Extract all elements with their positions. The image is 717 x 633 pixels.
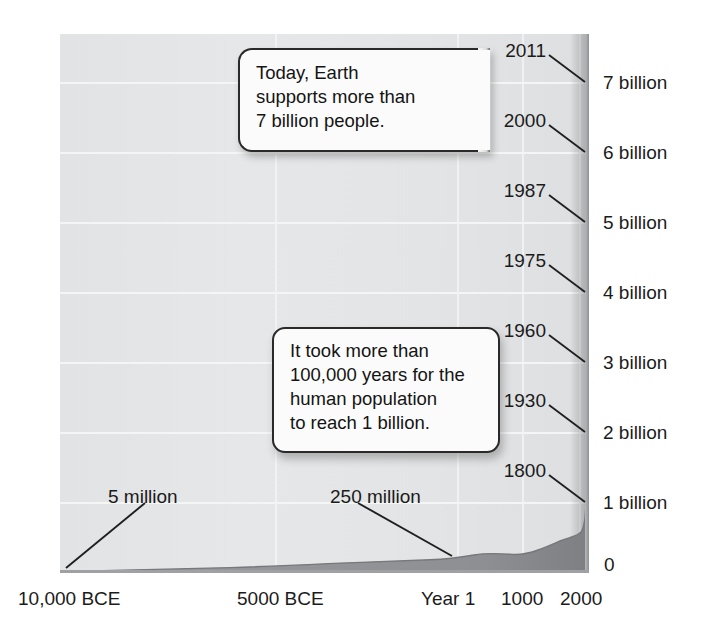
y-tick-label-zero: 0	[604, 555, 615, 574]
annotation-250-million: 250 million	[330, 487, 421, 506]
callout-today-earth-text: Today, Earth supports more than 7 billio…	[256, 61, 490, 133]
y-tick-label-7-billion: 7 billion	[603, 73, 667, 92]
x-tick-label-5000-bce: 5000 BCE	[237, 589, 324, 608]
callout-100000-years-text: It took more than 100,000 years for the …	[290, 339, 498, 435]
y-tick-label-5-billion: 5 billion	[603, 213, 667, 232]
x-tick-label-10000-bce: 10,000 BCE	[18, 589, 120, 608]
callout-today-earth: Today, Earth supports more than 7 billio…	[238, 48, 490, 152]
callout-right-fade	[478, 48, 492, 152]
x-tick-label-2000: 2000	[560, 589, 602, 608]
y-tick-label-1-billion: 1 billion	[603, 493, 667, 512]
milestone-year-1987: 1987	[448, 181, 546, 200]
y-tick-label-2-billion: 2 billion	[603, 423, 667, 442]
scan-artifact-text	[120, 0, 440, 9]
x-tick-label-1000: 1000	[501, 589, 543, 608]
x-axis-line	[60, 570, 589, 573]
y-tick-label-6-billion: 6 billion	[603, 143, 667, 162]
x-tick-label-year-1: Year 1	[421, 589, 475, 608]
milestone-year-1975: 1975	[448, 251, 546, 270]
y-axis-line	[585, 34, 589, 573]
milestone-year-1800: 1800	[448, 461, 546, 480]
population-chart-figure: 2011 2000 1987 1975 1960 1930 1800 7 bil…	[0, 0, 717, 633]
y-tick-label-4-billion: 4 billion	[603, 283, 667, 302]
y-tick-label-3-billion: 3 billion	[603, 353, 667, 372]
callout-100000-years: It took more than 100,000 years for the …	[272, 327, 500, 453]
annotation-5-million: 5 million	[108, 487, 178, 506]
